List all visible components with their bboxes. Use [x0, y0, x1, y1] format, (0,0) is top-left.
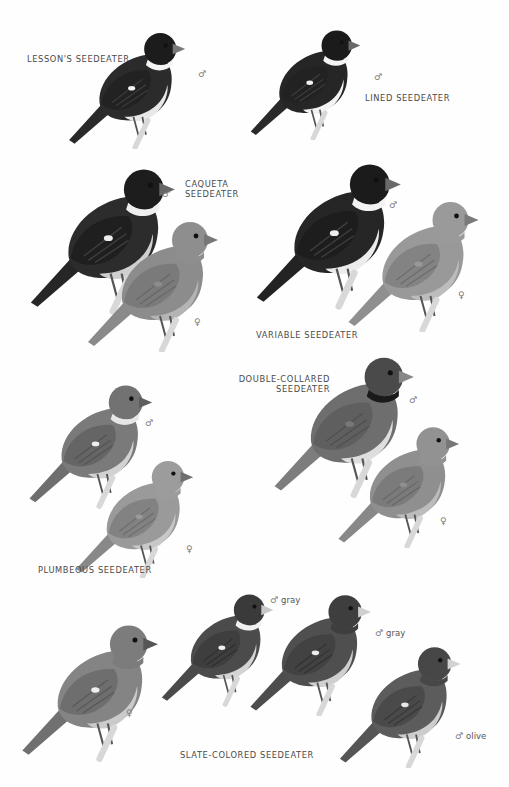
male-symbol: ♂ [162, 189, 170, 199]
male-morph-label-olive: ♂olive [455, 731, 486, 741]
male-morph-label-gray: ♂gray [375, 628, 405, 638]
male-symbol: ♂ [198, 69, 206, 79]
female-symbol: ♀ [440, 516, 447, 526]
species-label-caqueta-seedeater: CAQUETA SEEDEATER [185, 179, 239, 199]
morph-gray: gray [386, 628, 405, 638]
bird-illustration-double-collared-female [310, 418, 482, 548]
species-label-variable-seedeater: VARIABLE SEEDEATER [256, 330, 358, 340]
male-symbol: ♂ [145, 418, 153, 428]
bird-illustration-slate-colored-female [14, 602, 160, 774]
morph-olive: olive [466, 731, 486, 741]
male-symbol: ♂ [455, 731, 463, 741]
field-guide-plate: LESSON'S SEEDEATER ♂ ♂ LINED SEEDEATER C… [0, 0, 509, 787]
species-label-line-1: CAQUETA [185, 179, 239, 189]
bird-illustration-lessons-male [42, 24, 207, 149]
female-symbol: ♀ [126, 708, 133, 718]
female-symbol: ♀ [186, 544, 193, 554]
female-symbol: ♀ [458, 290, 465, 300]
bird-illustration-lined-male [208, 22, 398, 140]
male-symbol: ♂ [374, 72, 382, 82]
species-label-lined-seedeater: LINED SEEDEATER [365, 93, 450, 103]
species-label-plumbeous-seedeater: PLUMBEOUS SEEDEATER [38, 565, 152, 575]
bird-illustration-caqueta-female [60, 212, 240, 352]
male-symbol: ♂ [375, 628, 383, 638]
bird-illustration-slate-colored-male-olive [300, 638, 495, 768]
species-label-slate-colored-seedeater: SLATE-COLORED SEEDEATER [180, 750, 314, 760]
male-symbol: ♂ [409, 395, 417, 405]
bird-illustration-variable-female [328, 192, 493, 332]
female-symbol: ♀ [194, 317, 201, 327]
species-label-line-2: SEEDEATER [185, 189, 239, 199]
